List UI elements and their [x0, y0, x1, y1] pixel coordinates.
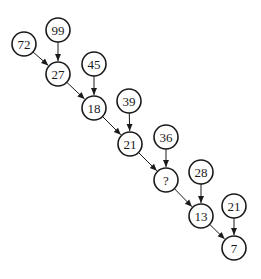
arrow-edge [138, 152, 156, 170]
node-label: 28 [195, 165, 208, 180]
node-label: 21 [124, 137, 137, 152]
arrow-edge [210, 224, 225, 239]
arrow-edge [67, 82, 85, 99]
unknown-node: ? [154, 168, 178, 192]
arrow-edge [33, 52, 48, 65]
nodes-group: 7299274518392136?2813217 [12, 18, 246, 260]
number-node: 13 [189, 204, 213, 228]
number-node: 45 [82, 52, 106, 76]
arrow-edge [102, 116, 120, 134]
number-node: 99 [46, 18, 70, 42]
node-label: 36 [160, 130, 174, 145]
arrow-edge [174, 189, 192, 207]
number-node: 72 [12, 32, 36, 56]
node-label: 27 [52, 67, 66, 82]
node-label: 21 [228, 199, 241, 214]
number-tree-diagram: 7299274518392136?2813217 [0, 0, 261, 279]
node-label: 13 [195, 209, 208, 224]
node-label: 18 [88, 101, 101, 116]
number-node: 18 [82, 96, 106, 120]
number-node: 7 [222, 236, 246, 260]
number-node: 21 [222, 194, 246, 218]
node-label: 39 [123, 94, 136, 109]
number-node: 21 [118, 132, 142, 156]
number-node: 36 [154, 125, 178, 149]
number-node: 28 [189, 160, 213, 184]
node-label: 99 [52, 23, 65, 38]
number-node: 39 [117, 89, 141, 113]
node-label: 45 [88, 57, 101, 72]
node-label: 72 [18, 37, 31, 52]
node-label: ? [163, 173, 169, 188]
number-node: 27 [46, 62, 70, 86]
node-label: 7 [231, 241, 238, 256]
